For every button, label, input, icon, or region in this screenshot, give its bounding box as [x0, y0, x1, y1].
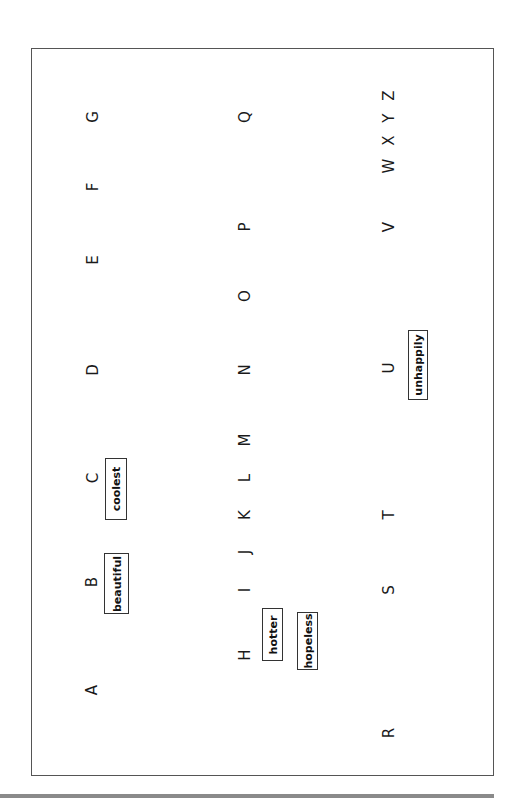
word-tile-hopeless[interactable]: hopeless: [297, 612, 318, 670]
bottom-divider: [0, 794, 494, 798]
word-tile-hotter[interactable]: hotter: [262, 608, 283, 661]
worksheet-frame: [31, 48, 494, 776]
word-tile-beautiful[interactable]: beautiful: [104, 553, 129, 614]
word-tile-coolest[interactable]: coolest: [105, 458, 127, 520]
word-tile-unhappily[interactable]: unhappily: [408, 330, 428, 400]
